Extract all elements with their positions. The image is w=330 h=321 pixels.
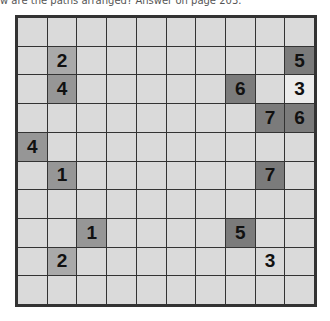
empty-cell[interactable] [137, 133, 166, 161]
empty-cell[interactable] [77, 47, 106, 75]
clue-cell[interactable]: 3 [285, 75, 314, 103]
empty-cell[interactable] [167, 162, 196, 190]
empty-cell[interactable] [167, 219, 196, 247]
clue-cell[interactable]: 4 [18, 133, 47, 161]
empty-cell[interactable] [226, 133, 255, 161]
empty-cell[interactable] [196, 248, 225, 276]
clue-cell[interactable]: 6 [285, 104, 314, 132]
clue-cell[interactable]: 3 [256, 248, 285, 276]
empty-cell[interactable] [167, 75, 196, 103]
clue-cell[interactable]: 4 [48, 75, 77, 103]
empty-cell[interactable] [18, 276, 47, 304]
empty-cell[interactable] [18, 47, 47, 75]
empty-cell[interactable] [167, 104, 196, 132]
empty-cell[interactable] [196, 190, 225, 218]
clue-cell[interactable]: 2 [48, 47, 77, 75]
empty-cell[interactable] [107, 47, 136, 75]
clue-cell[interactable]: 5 [285, 47, 314, 75]
empty-cell[interactable] [226, 47, 255, 75]
empty-cell[interactable] [18, 219, 47, 247]
empty-cell[interactable] [196, 47, 225, 75]
empty-cell[interactable] [107, 133, 136, 161]
empty-cell[interactable] [77, 162, 106, 190]
empty-cell[interactable] [18, 18, 47, 46]
empty-cell[interactable] [196, 104, 225, 132]
empty-cell[interactable] [137, 190, 166, 218]
empty-cell[interactable] [226, 248, 255, 276]
empty-cell[interactable] [18, 248, 47, 276]
empty-cell[interactable] [137, 18, 166, 46]
empty-cell[interactable] [77, 133, 106, 161]
empty-cell[interactable] [256, 276, 285, 304]
empty-cell[interactable] [285, 162, 314, 190]
empty-cell[interactable] [77, 248, 106, 276]
empty-cell[interactable] [77, 18, 106, 46]
empty-cell[interactable] [107, 248, 136, 276]
empty-cell[interactable] [285, 133, 314, 161]
empty-cell[interactable] [137, 104, 166, 132]
empty-cell[interactable] [107, 18, 136, 46]
empty-cell[interactable] [196, 133, 225, 161]
empty-cell[interactable] [18, 162, 47, 190]
empty-cell[interactable] [285, 276, 314, 304]
empty-cell[interactable] [77, 190, 106, 218]
empty-cell[interactable] [48, 276, 77, 304]
empty-cell[interactable] [107, 219, 136, 247]
empty-cell[interactable] [196, 162, 225, 190]
empty-cell[interactable] [167, 190, 196, 218]
empty-cell[interactable] [48, 133, 77, 161]
empty-cell[interactable] [226, 162, 255, 190]
empty-cell[interactable] [167, 276, 196, 304]
clue-cell[interactable]: 2 [48, 248, 77, 276]
empty-cell[interactable] [137, 162, 166, 190]
clue-cell[interactable]: 5 [226, 219, 255, 247]
empty-cell[interactable] [77, 75, 106, 103]
empty-cell[interactable] [167, 18, 196, 46]
empty-cell[interactable] [48, 18, 77, 46]
empty-cell[interactable] [77, 104, 106, 132]
empty-cell[interactable] [48, 190, 77, 218]
empty-cell[interactable] [167, 133, 196, 161]
empty-cell[interactable] [18, 75, 47, 103]
clue-cell[interactable]: 6 [226, 75, 255, 103]
clue-cell[interactable]: 7 [256, 162, 285, 190]
empty-cell[interactable] [107, 162, 136, 190]
empty-cell[interactable] [285, 18, 314, 46]
empty-cell[interactable] [226, 104, 255, 132]
empty-cell[interactable] [256, 75, 285, 103]
empty-cell[interactable] [256, 133, 285, 161]
empty-cell[interactable] [226, 18, 255, 46]
empty-cell[interactable] [48, 104, 77, 132]
empty-cell[interactable] [285, 219, 314, 247]
empty-cell[interactable] [256, 18, 285, 46]
empty-cell[interactable] [256, 190, 285, 218]
empty-cell[interactable] [137, 219, 166, 247]
empty-cell[interactable] [18, 104, 47, 132]
empty-cell[interactable] [256, 219, 285, 247]
empty-cell[interactable] [137, 47, 166, 75]
empty-cell[interactable] [107, 276, 136, 304]
empty-cell[interactable] [226, 190, 255, 218]
clue-cell[interactable]: 1 [48, 162, 77, 190]
empty-cell[interactable] [18, 190, 47, 218]
empty-cell[interactable] [77, 276, 106, 304]
empty-cell[interactable] [196, 276, 225, 304]
empty-cell[interactable] [226, 276, 255, 304]
empty-cell[interactable] [196, 18, 225, 46]
empty-cell[interactable] [167, 248, 196, 276]
empty-cell[interactable] [285, 190, 314, 218]
empty-cell[interactable] [256, 47, 285, 75]
empty-cell[interactable] [137, 248, 166, 276]
empty-cell[interactable] [137, 75, 166, 103]
empty-cell[interactable] [285, 248, 314, 276]
empty-cell[interactable] [107, 190, 136, 218]
empty-cell[interactable] [48, 219, 77, 247]
clue-cell[interactable]: 7 [256, 104, 285, 132]
empty-cell[interactable] [196, 75, 225, 103]
empty-cell[interactable] [107, 104, 136, 132]
empty-cell[interactable] [137, 276, 166, 304]
empty-cell[interactable] [167, 47, 196, 75]
empty-cell[interactable] [196, 219, 225, 247]
clue-cell[interactable]: 1 [77, 219, 106, 247]
empty-cell[interactable] [107, 75, 136, 103]
